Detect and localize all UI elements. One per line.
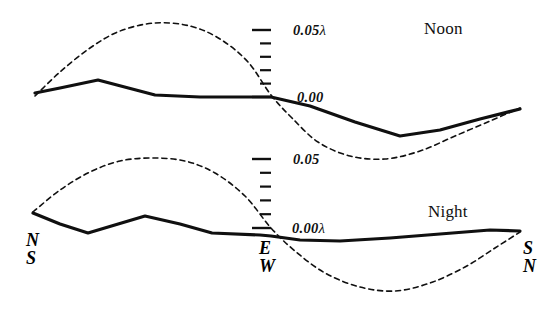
axis-label-left-bottom: S bbox=[26, 250, 36, 268]
plot-svg bbox=[0, 0, 553, 310]
curve-night-theoretical bbox=[33, 158, 520, 291]
noon-scale-top-lambda: λ bbox=[320, 22, 327, 38]
noon-scale-bottom-value: 0.00 bbox=[297, 89, 324, 105]
series-layer bbox=[33, 23, 520, 291]
axis-label-center-bottom: W bbox=[259, 258, 275, 276]
axis-label-center: E W bbox=[259, 240, 275, 275]
noon-scale-top-value: 0.05 bbox=[293, 22, 320, 38]
night-scale-top-value: 0.05 bbox=[293, 151, 320, 167]
scale-ticks-layer bbox=[252, 30, 271, 228]
noon-scale-bottom-label: 0.00 bbox=[297, 89, 324, 105]
curve-noon-theoretical bbox=[35, 23, 520, 160]
night-scale-bottom-lambda: λ bbox=[319, 220, 326, 236]
night-scale-bottom-value: 0.00 bbox=[292, 220, 319, 236]
panel-title-night: Night bbox=[428, 203, 468, 220]
axis-label-center-top: E bbox=[259, 240, 271, 258]
axis-label-right-bottom: N bbox=[523, 258, 536, 276]
axis-label-left: N S bbox=[26, 232, 39, 267]
figure-canvas: Noon Night 0.05λ 0.00 0.05 0.00λ N S E W… bbox=[0, 0, 553, 310]
night-scale-top-label: 0.05 bbox=[293, 151, 320, 167]
axis-label-left-top: N bbox=[26, 232, 39, 250]
panel-title-noon: Noon bbox=[424, 20, 463, 37]
curve-noon-observed bbox=[35, 80, 520, 136]
noon-scale-top-label: 0.05λ bbox=[293, 22, 326, 38]
axis-label-right: S N bbox=[523, 240, 536, 275]
night-scale-bottom-label: 0.00λ bbox=[292, 220, 325, 236]
axis-label-right-top: S bbox=[523, 240, 533, 258]
